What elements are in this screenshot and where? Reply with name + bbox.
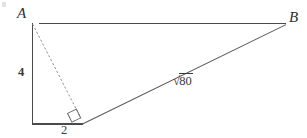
segment-top-side-AB — [32, 23, 287, 24]
side-length-label-vertical-leg: 4 — [18, 66, 24, 79]
geometry-figure: A B 4 2 √80 — [0, 0, 307, 138]
right-angle-marker — [68, 109, 81, 122]
segment-altitude-dashed — [33, 24, 81, 118]
triangle-diagram-canvas — [0, 0, 307, 138]
vertex-label-b: B — [289, 10, 298, 25]
side-length-label-hypotenuse: √80 — [173, 74, 193, 88]
radicand-value: 80 — [179, 73, 193, 88]
vertex-label-a: A — [17, 6, 26, 21]
side-length-label-horizontal-leg: 2 — [61, 124, 67, 137]
radical-expression: √80 — [173, 74, 193, 88]
